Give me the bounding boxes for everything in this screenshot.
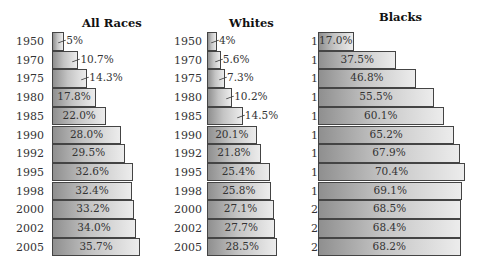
- year-label: 1995: [10, 166, 44, 179]
- value-label: 17.8%: [52, 90, 96, 102]
- value-label: 21.8%: [207, 146, 261, 158]
- value-label: 55.5%: [318, 90, 434, 102]
- value-label: 60.1%: [318, 109, 444, 121]
- value-label: 65.2%: [318, 128, 454, 140]
- value-label: 69.1%: [318, 184, 462, 196]
- chart-title: Whites: [229, 16, 274, 30]
- value-label: 27.7%: [207, 221, 275, 233]
- year-label: 1950: [10, 35, 44, 48]
- year-label: 2000: [168, 203, 202, 216]
- year-label: 1998: [168, 185, 202, 198]
- year-label: 1998: [10, 185, 44, 198]
- value-label: 32.6%: [52, 165, 133, 177]
- year-label: 1990: [168, 129, 202, 142]
- value-label: 25.8%: [207, 184, 271, 196]
- value-label: 35.7%: [52, 240, 140, 252]
- value-label: 20.1%: [207, 128, 257, 140]
- value-label: 14.3%: [89, 71, 122, 83]
- year-label: 1970: [10, 54, 44, 67]
- value-label: 37.5%: [318, 53, 396, 65]
- year-label: 1992: [10, 147, 44, 160]
- value-label: 27.1%: [207, 202, 274, 214]
- year-label: 2000: [10, 203, 44, 216]
- value-label: 25.4%: [207, 165, 270, 177]
- value-label: 29.5%: [52, 146, 125, 158]
- value-label: 5%: [66, 34, 83, 46]
- value-label: 68.4%: [318, 221, 461, 233]
- year-label: 1975: [168, 72, 202, 85]
- value-label: 33.2%: [52, 202, 134, 214]
- value-label: 28.0%: [52, 128, 121, 140]
- value-label: 10.2%: [234, 90, 267, 102]
- value-label: 46.8%: [318, 71, 416, 83]
- chart-title: Blacks: [379, 10, 422, 24]
- value-label: 4%: [219, 34, 236, 46]
- year-label: 2002: [168, 222, 202, 235]
- value-label: 34.0%: [52, 221, 136, 233]
- value-label: 5.6%: [223, 53, 250, 65]
- value-label: 68.2%: [318, 240, 461, 252]
- value-label: 14.5%: [245, 109, 278, 121]
- year-label: 1990: [10, 129, 44, 142]
- value-label: 67.9%: [318, 146, 460, 158]
- year-label: 2005: [168, 241, 202, 254]
- year-label: 1985: [10, 110, 44, 123]
- value-label: 22.0%: [52, 109, 106, 121]
- year-label: 1980: [10, 91, 44, 104]
- value-label: 68.5%: [318, 202, 461, 214]
- value-label: 10.7%: [80, 53, 113, 65]
- year-label: 1992: [168, 147, 202, 160]
- year-label: 1995: [168, 166, 202, 179]
- year-label: 1975: [10, 72, 44, 85]
- year-label: 1970: [168, 54, 202, 67]
- value-label: 7.3%: [227, 71, 254, 83]
- year-label: 2005: [10, 241, 44, 254]
- value-label: 32.4%: [52, 184, 132, 196]
- chart-title: All Races: [82, 16, 142, 30]
- year-label: 2002: [10, 222, 44, 235]
- year-label: 1950: [168, 35, 202, 48]
- value-label: 70.4%: [318, 165, 465, 177]
- value-label: 17.0%: [318, 34, 354, 46]
- year-label: 1985: [168, 110, 202, 123]
- year-label: 1980: [168, 91, 202, 104]
- value-label: 28.5%: [207, 240, 277, 252]
